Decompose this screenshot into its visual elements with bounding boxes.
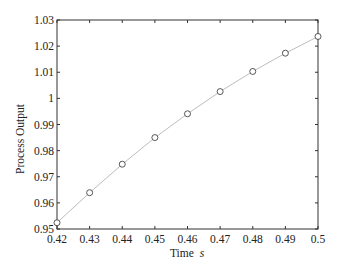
x-tick-label: 0.48 [243,233,263,245]
y-tick-label: 0.99 [34,119,54,131]
data-point-marker [217,89,223,95]
x-tick-label: 0.45 [145,233,165,245]
y-tick-label: 0.98 [34,145,54,157]
data-point-marker [152,135,158,141]
x-tick-label: 0.43 [80,233,100,245]
y-axis-label: Process Output [14,103,27,174]
x-tick-label: 0.44 [112,233,132,245]
x-tick-labels: 0.420.430.440.450.460.470.480.490.5 [47,233,326,245]
axis-ticks [57,20,318,229]
x-tick-label: 0.46 [177,233,197,245]
y-tick-label: 1.03 [34,14,54,26]
data-series [54,33,321,225]
x-tick-label: 0.5 [311,233,326,245]
x-tick-label: 0.49 [275,233,295,245]
series-line [57,37,318,223]
y-tick-labels: 0.950.960.970.980.9911.011.021.03 [34,14,54,235]
x-axis-label-text: Time [170,247,194,259]
data-point-marker [282,50,288,56]
x-axis-unit: s [200,247,205,259]
y-tick-label: 0.96 [34,197,54,209]
y-tick-label: 1 [48,92,54,104]
data-point-marker [87,190,93,196]
y-tick-label: 1.01 [34,66,54,78]
data-point-marker [250,68,256,74]
plot-area-frame [57,20,318,229]
data-point-marker [54,220,60,226]
x-tick-label: 0.47 [210,233,230,245]
process-output-chart: 0.420.430.440.450.460.470.480.490.5 0.95… [0,0,339,270]
x-axis-label: Time s [170,247,205,259]
y-tick-label: 0.95 [34,223,54,235]
y-tick-label: 0.97 [34,171,54,183]
data-point-marker [119,161,125,167]
data-point-marker [315,33,321,39]
y-tick-label: 1.02 [34,40,54,52]
data-point-marker [185,111,191,117]
